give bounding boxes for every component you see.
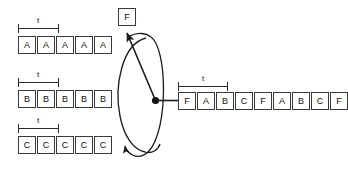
bracket-label: t <box>35 117 41 125</box>
channel-c-stream: C C C C C <box>18 136 112 154</box>
cell-out-3: C <box>235 92 253 110</box>
bracket-label: t <box>35 71 41 79</box>
cell-c-4: C <box>94 136 112 154</box>
cell-out-7: C <box>311 92 329 110</box>
cell-c-0: C <box>18 136 36 154</box>
cell-b-1: B <box>37 90 55 108</box>
rotation-ellipse-outer <box>125 37 164 156</box>
cell-out-4: F <box>254 92 272 110</box>
cell-a-0: A <box>18 36 36 54</box>
cell-out-8: F <box>330 92 348 110</box>
bracket-label: t <box>35 17 41 25</box>
cell-b-0: B <box>18 90 36 108</box>
bracket-tick-left <box>18 124 19 133</box>
cell-a-3: A <box>75 36 93 54</box>
bracket-tick-left <box>178 82 179 91</box>
bracket-bar <box>18 128 59 129</box>
cell-b-3: B <box>75 90 93 108</box>
rotation-arc-top <box>130 33 151 37</box>
multiplexed-output-stream: F A B C F A B C F <box>178 92 348 110</box>
cell-a-4: A <box>94 36 112 54</box>
rotation-arc-bottom <box>145 144 160 153</box>
cell-out-2: B <box>216 92 234 110</box>
bracket-tick-left <box>18 24 19 33</box>
commutator-frame-label-box: F <box>118 8 136 26</box>
bracket-bar <box>18 82 59 83</box>
cell-a-2: A <box>56 36 74 54</box>
bracket-bar <box>18 28 59 29</box>
cell-out-6: B <box>292 92 310 110</box>
channel-a-stream: A A A A A <box>18 36 112 54</box>
cell-a-1: A <box>37 36 55 54</box>
cell-b-2: B <box>56 90 74 108</box>
cell-c-3: C <box>75 136 93 154</box>
commutator-arm <box>127 33 156 101</box>
cell-c-2: C <box>56 136 74 154</box>
cell-out-0: F <box>178 92 196 110</box>
cell-b-4: B <box>94 90 112 108</box>
cell-c-1: C <box>37 136 55 154</box>
commutator-hub-dot <box>152 97 159 104</box>
rotation-ellipse-inner <box>118 38 146 152</box>
bracket-tick-right <box>58 78 59 87</box>
channel-b-stream: B B B B B <box>18 90 112 108</box>
bracket-label: t <box>200 75 206 83</box>
bracket-tick-left <box>18 78 19 87</box>
cell-out-5: A <box>273 92 291 110</box>
bracket-bar <box>178 86 228 87</box>
bracket-tick-right <box>58 24 59 33</box>
bracket-tick-right <box>227 82 228 91</box>
bracket-tick-right <box>58 124 59 133</box>
cell-out-1: A <box>197 92 215 110</box>
